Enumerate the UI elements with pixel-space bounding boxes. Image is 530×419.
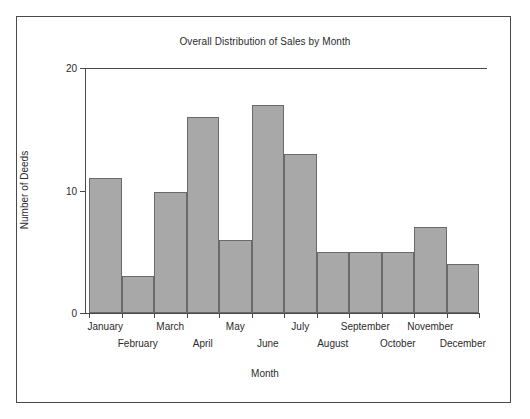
x-tick-label-june: June: [257, 338, 279, 349]
bar[interactable]: [382, 252, 415, 313]
x-tick-mark: [122, 314, 123, 318]
x-tick-mark: [154, 314, 155, 318]
bar[interactable]: [349, 252, 382, 313]
x-tick-label-february: February: [118, 338, 158, 349]
y-axis-title: Number of Deeds: [19, 151, 30, 229]
x-tick-mark: [447, 314, 448, 318]
x-tick-label-august: August: [317, 338, 348, 349]
y-tick-mark: [80, 313, 85, 314]
bar[interactable]: [317, 252, 350, 313]
x-tick-mark: [349, 314, 350, 318]
x-tick-label-december: December: [440, 338, 486, 349]
bar[interactable]: [284, 154, 317, 313]
x-tick-label-april: April: [193, 338, 213, 349]
x-tick-mark: [414, 314, 415, 318]
chart-title: Overall Distribution of Sales by Month: [0, 36, 530, 47]
x-tick-label-may: May: [226, 321, 245, 332]
x-tick-mark: [382, 314, 383, 318]
x-tick-mark: [252, 314, 253, 318]
x-axis-line: [85, 313, 480, 314]
x-tick-mark: [89, 314, 90, 318]
y-tick-label: 10: [66, 185, 77, 196]
x-tick-label-march: March: [156, 321, 184, 332]
bar[interactable]: [252, 105, 285, 313]
bar[interactable]: [219, 240, 252, 314]
x-axis-title: Month: [0, 368, 530, 379]
x-tick-label-october: October: [380, 338, 416, 349]
x-tick-label-november: November: [407, 321, 453, 332]
bar[interactable]: [89, 178, 122, 313]
bar-series: [85, 68, 487, 313]
x-tick-mark: [219, 314, 220, 318]
x-tick-mark: [317, 314, 318, 318]
bar[interactable]: [154, 192, 187, 313]
x-tick-label-january: January: [87, 321, 123, 332]
x-tick-mark: [187, 314, 188, 318]
x-tick-mark: [479, 314, 480, 318]
bar[interactable]: [122, 276, 155, 313]
y-tick-label: 0: [71, 308, 77, 319]
x-tick-label-july: July: [291, 321, 309, 332]
y-tick-label: 20: [66, 63, 77, 74]
bar[interactable]: [187, 117, 220, 313]
bar[interactable]: [414, 227, 447, 313]
x-tick-label-september: September: [341, 321, 390, 332]
x-tick-mark: [284, 314, 285, 318]
bar[interactable]: [447, 264, 480, 313]
chart-figure: Overall Distribution of Sales by Month N…: [0, 0, 530, 419]
plot-area: 01020: [85, 68, 487, 313]
